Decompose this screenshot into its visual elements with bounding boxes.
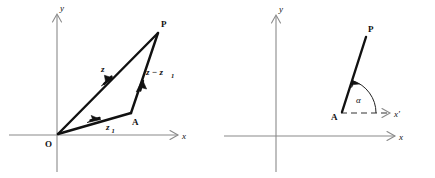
point-a-label: A [132, 117, 139, 127]
right-panel-canvas: y x x′ A P α [218, 0, 435, 178]
origin-label: O [45, 139, 52, 149]
right-y-axis [272, 15, 281, 172]
left-y-axis-label: y [59, 3, 64, 13]
svg-text:z: z [105, 122, 110, 132]
x-prime-axis-label: x′ [393, 109, 401, 119]
svg-text:1: 1 [171, 72, 174, 79]
x-prime-axis [341, 109, 390, 118]
vector-z1-label: z 1 [105, 122, 115, 134]
svg-text:1: 1 [112, 127, 115, 134]
left-x-axis-label: x [181, 131, 186, 141]
right-x-axis-label: x [398, 132, 403, 142]
left-panel-canvas: y x O P A z z 1 z − z 1 [0, 0, 218, 178]
right-point-a-label: A [331, 112, 338, 122]
left-y-axis [53, 14, 62, 172]
left-panel: y x O P A z z 1 z − z 1 [0, 0, 218, 178]
left-x-axis [9, 131, 178, 140]
right-y-axis-label: y [278, 4, 283, 14]
vector-z-minus-z1-label: z − z 1 [145, 67, 174, 79]
svg-text:z − z: z − z [145, 67, 163, 77]
angle-alpha-label: α [356, 95, 361, 105]
segment-ap [342, 37, 366, 112]
right-point-p-label: P [368, 24, 374, 34]
vector-z-label: z [100, 64, 105, 74]
point-p-label: P [161, 19, 167, 29]
right-x-axis [224, 132, 395, 141]
figure-root: y x O P A z z 1 z − z 1 [0, 0, 435, 178]
right-panel: y x x′ A P α [218, 0, 435, 178]
